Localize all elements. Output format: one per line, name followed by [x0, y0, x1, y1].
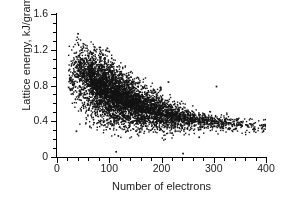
y-tick-minor: [53, 112, 56, 113]
y-tick-label: 1.6: [33, 8, 48, 19]
x-tick-minor: [78, 158, 79, 161]
x-tick-minor: [151, 158, 152, 161]
y-tick-major: [51, 50, 56, 51]
x-tick-minor: [224, 158, 225, 161]
plot-area: [57, 14, 266, 157]
x-tick-minor: [99, 158, 100, 161]
y-tick-label: 0: [42, 151, 48, 162]
x-tick-label: 100: [100, 163, 118, 174]
y-tick-major: [51, 14, 56, 15]
y-tick-major: [51, 157, 56, 158]
x-tick-label: 200: [153, 163, 171, 174]
y-tick-minor: [53, 68, 56, 69]
y-tick-minor: [53, 77, 56, 78]
y-axis-title: Lattice energy, kJ/gram: [20, 0, 32, 124]
x-tick-minor: [172, 158, 173, 161]
x-tick-minor: [235, 158, 236, 161]
y-tick-minor: [53, 32, 56, 33]
x-tick-minor: [141, 158, 142, 161]
y-tick-minor: [53, 59, 56, 60]
y-tick-major: [51, 86, 56, 87]
y-tick-minor: [53, 139, 56, 140]
scatter-points-layer: [57, 14, 266, 157]
x-axis-title: Number of electrons: [56, 180, 267, 192]
y-tick-minor: [53, 130, 56, 131]
scatter-chart-figure: 00.40.81.21.6 0100200300400 Lattice ener…: [0, 0, 283, 203]
y-tick-minor: [53, 41, 56, 42]
x-tick-label: 300: [205, 163, 223, 174]
y-tick-label: 0.4: [33, 115, 48, 126]
x-tick-minor: [256, 158, 257, 161]
x-tick-label: 0: [54, 163, 60, 174]
x-tick-minor: [67, 158, 68, 161]
x-tick-minor: [245, 158, 246, 161]
y-tick-label: 0.8: [33, 80, 48, 91]
x-tick-minor: [193, 158, 194, 161]
y-tick-minor: [53, 148, 56, 149]
y-tick-minor: [53, 23, 56, 24]
y-tick-minor: [53, 94, 56, 95]
x-tick-minor: [88, 158, 89, 161]
x-tick-minor: [203, 158, 204, 161]
x-tick-minor: [130, 158, 131, 161]
y-tick-label: 1.2: [33, 44, 48, 55]
y-tick-major: [51, 121, 56, 122]
y-tick-minor: [53, 103, 56, 104]
y-axis-line: [56, 13, 57, 158]
x-tick-minor: [182, 158, 183, 161]
x-tick-label: 400: [257, 163, 275, 174]
x-tick-minor: [120, 158, 121, 161]
